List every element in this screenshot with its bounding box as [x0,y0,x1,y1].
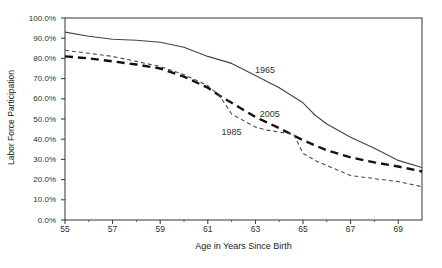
y-tick-label: 0.0% [0,215,56,226]
x-axis-title: Age in Years Since Birth [143,241,344,252]
y-tick-label: 30.0% [0,154,56,165]
x-tick-label: 69 [386,224,410,235]
y-tick-label: 100.0% [0,13,56,24]
plot-border [65,18,422,220]
series-line-1965 [65,32,422,167]
x-tick-label: 65 [291,224,315,235]
x-tick-label: 67 [339,224,363,235]
y-tick-label: 50.0% [0,114,56,125]
series-line-2005 [65,56,422,171]
y-tick-label: 80.0% [0,53,56,64]
chart-figure: Labor Force Participation Age in Years S… [0,0,442,268]
series-label-2005: 2005 [260,109,280,119]
series-line-1985 [65,50,422,186]
y-tick-label: 20.0% [0,174,56,185]
y-tick-label: 60.0% [0,93,56,104]
series-label-1985: 1985 [222,127,242,137]
x-tick-label: 55 [53,224,77,235]
x-tick-label: 63 [243,224,267,235]
y-tick-label: 70.0% [0,73,56,84]
series-label-1965: 1965 [255,65,275,75]
y-tick-label: 90.0% [0,33,56,44]
x-tick-label: 59 [148,224,172,235]
x-tick-label: 61 [196,224,220,235]
y-tick-label: 10.0% [0,194,56,205]
x-tick-label: 57 [101,224,125,235]
y-tick-label: 40.0% [0,134,56,145]
